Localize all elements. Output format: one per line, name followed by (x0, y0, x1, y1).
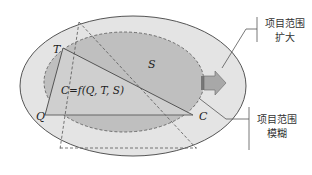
vertex-label-Q: Q (36, 110, 45, 123)
vertex-label-C: C (199, 110, 207, 123)
callout-fuzzy-text: 项目范围 模糊 (252, 113, 302, 141)
vertex-label-T: T (53, 43, 60, 56)
region-label-S: S (148, 58, 156, 71)
callout-fuzzy-line2: 模糊 (252, 127, 302, 141)
formula-label: C=f(Q, T, S) (61, 84, 124, 96)
callout-fuzzy-line1: 项目范围 (252, 113, 302, 127)
callout-expand-text: 项目范围 扩大 (260, 17, 310, 45)
callout-expand-line2: 扩大 (260, 31, 310, 45)
callout-expand-line1: 项目范围 (260, 17, 310, 31)
